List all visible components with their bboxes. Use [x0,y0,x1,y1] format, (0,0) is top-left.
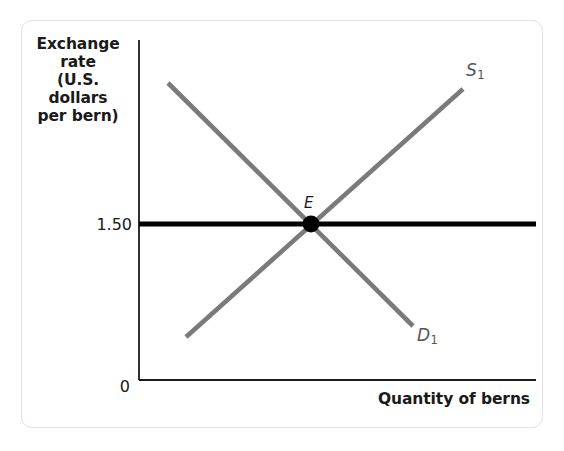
demand-curve-label-subscript: 1 [431,333,438,347]
demand-curve-label: D1 [417,325,437,345]
equilibrium-point-marker [303,216,320,233]
y-axis-title: Exchange rate (U.S. dollars per bern) [26,36,130,126]
supply-curve [186,89,463,337]
y-axis-title-line-5: per bern) [26,108,130,126]
origin-label: 0 [108,377,130,396]
figure-root: Exchange rate (U.S. dollars per bern) 1.… [0,0,564,451]
x-axis-title: Quantity of berns [378,390,530,408]
y-axis-tick-label-150: 1.50 [76,215,132,234]
y-axis-title-line-3: (U.S. [26,72,130,90]
demand-curve [168,83,413,326]
supply-curve-label-letter: S [466,60,477,80]
y-axis-title-line-4: dollars [26,90,130,108]
y-axis-title-line-1: Exchange [26,36,130,54]
demand-curve-label-letter: D [417,325,430,345]
supply-curve-label: S1 [466,60,484,80]
equilibrium-point-label: E [304,194,313,212]
y-axis-title-line-2: rate [26,54,130,72]
supply-curve-label-subscript: 1 [477,68,484,82]
